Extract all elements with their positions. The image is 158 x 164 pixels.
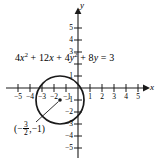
x-tick-label--2: −2: [48, 92, 60, 101]
fraction-three-halves: 32: [23, 121, 29, 137]
label-y-value: −1: [32, 124, 42, 134]
y-tick-label-1: 1: [62, 71, 73, 80]
equation-term-9: + 8: [78, 52, 94, 63]
x-tick-label--3: −3: [36, 92, 48, 101]
graph-svg: [0, 0, 158, 164]
equation-term-6: + 4: [54, 52, 70, 63]
x-axis-label: x: [150, 82, 154, 92]
circle-equation: 4x2 + 12x + 4y2 + 8y = 3: [15, 52, 114, 63]
x-tick-label--5: −5: [12, 92, 24, 101]
y-tick-label-5: 5: [62, 23, 73, 32]
coordinate-plane-figure: x y −5 −4 −3 −2 −1 1 2 3 4 5 5 4 3 1 −1 …: [0, 0, 158, 164]
y-axis-label: y: [80, 0, 84, 10]
equation-term-11: = 3: [98, 52, 114, 63]
x-tick-label-4: 4: [120, 92, 132, 101]
label-close-paren: ): [42, 124, 45, 134]
y-tick-label--1: −1: [62, 95, 73, 104]
y-tick-label--5: −5: [62, 143, 73, 152]
x-axis-arrowhead: [143, 85, 150, 92]
y-tick-label--3: −3: [62, 119, 73, 128]
fraction-denominator: 2: [23, 129, 29, 137]
y-tick-label-4: 4: [62, 35, 73, 44]
y-tick-label--2: −2: [62, 107, 73, 116]
equation-term-4: + 12: [28, 52, 49, 63]
fraction-numerator: 3: [23, 121, 29, 129]
x-tick-label-1: 1: [84, 92, 96, 101]
x-tick-label-2: 2: [96, 92, 108, 101]
label-minus-sign: −: [17, 124, 22, 134]
center-coordinate-label: (−32, −1): [14, 121, 45, 137]
x-tick-label--4: −4: [24, 92, 36, 101]
y-tick-label--4: −4: [62, 131, 73, 140]
x-tick-label-5: 5: [132, 92, 144, 101]
x-tick-label-3: 3: [108, 92, 120, 101]
